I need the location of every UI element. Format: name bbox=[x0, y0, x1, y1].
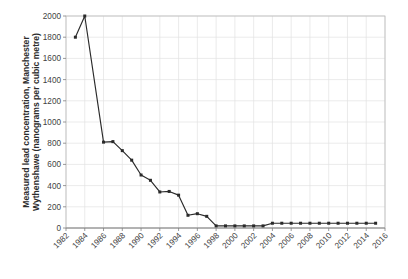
y-axis-tick-label: 200 bbox=[47, 203, 61, 212]
data-point-marker bbox=[215, 224, 218, 227]
data-point-marker bbox=[102, 141, 105, 144]
y-axis-title-line-1: Measured lead concentration, Manchester bbox=[21, 36, 31, 208]
y-axis-title-line-2: Wythenshawe (nanograms per cubic metre) bbox=[31, 33, 41, 211]
data-point-marker bbox=[121, 149, 124, 152]
data-point-marker bbox=[299, 222, 302, 225]
y-axis-tick-label: 600 bbox=[47, 160, 61, 169]
y-axis-tick-label: 1000 bbox=[43, 118, 62, 127]
data-point-marker bbox=[205, 215, 208, 218]
y-axis-tick-label: 1600 bbox=[43, 54, 62, 63]
data-point-marker bbox=[243, 224, 246, 227]
data-point-marker bbox=[337, 222, 340, 225]
y-axis-tick-label: 0 bbox=[56, 224, 61, 233]
data-point-marker bbox=[158, 190, 161, 193]
data-point-marker bbox=[168, 190, 171, 193]
data-point-marker bbox=[280, 222, 283, 225]
data-point-marker bbox=[346, 222, 349, 225]
data-point-marker bbox=[130, 159, 133, 162]
data-point-marker bbox=[262, 224, 265, 227]
chart-container: 0200400600800100012001400160018002000 19… bbox=[0, 0, 408, 279]
data-point-marker bbox=[271, 222, 274, 225]
data-point-marker bbox=[290, 222, 293, 225]
y-axis-tick-label: 800 bbox=[47, 139, 61, 148]
data-point-marker bbox=[308, 222, 311, 225]
data-point-marker bbox=[374, 222, 377, 225]
y-axis-tick-label: 1400 bbox=[43, 76, 62, 85]
data-point-marker bbox=[111, 140, 114, 143]
data-point-marker bbox=[318, 222, 321, 225]
lead-concentration-line-chart: 0200400600800100012001400160018002000 19… bbox=[0, 0, 408, 279]
data-point-marker bbox=[252, 224, 255, 227]
data-point-marker bbox=[149, 179, 152, 182]
data-point-marker bbox=[177, 194, 180, 197]
data-point-marker bbox=[83, 15, 86, 18]
data-point-marker bbox=[355, 222, 358, 225]
data-point-marker bbox=[327, 222, 330, 225]
data-point-marker bbox=[365, 222, 368, 225]
y-axis-tick-label: 1800 bbox=[43, 33, 62, 42]
data-point-marker bbox=[186, 214, 189, 217]
y-axis-tick-label: 1200 bbox=[43, 97, 62, 106]
data-point-marker bbox=[140, 174, 143, 177]
y-axis-tick-label: 2000 bbox=[43, 12, 62, 21]
data-point-marker bbox=[233, 224, 236, 227]
y-axis-title: Measured lead concentration, Manchester … bbox=[21, 33, 41, 211]
y-axis-tick-label: 400 bbox=[47, 182, 61, 191]
data-point-marker bbox=[224, 224, 227, 227]
data-point-marker bbox=[196, 212, 199, 215]
data-point-marker bbox=[74, 36, 77, 39]
